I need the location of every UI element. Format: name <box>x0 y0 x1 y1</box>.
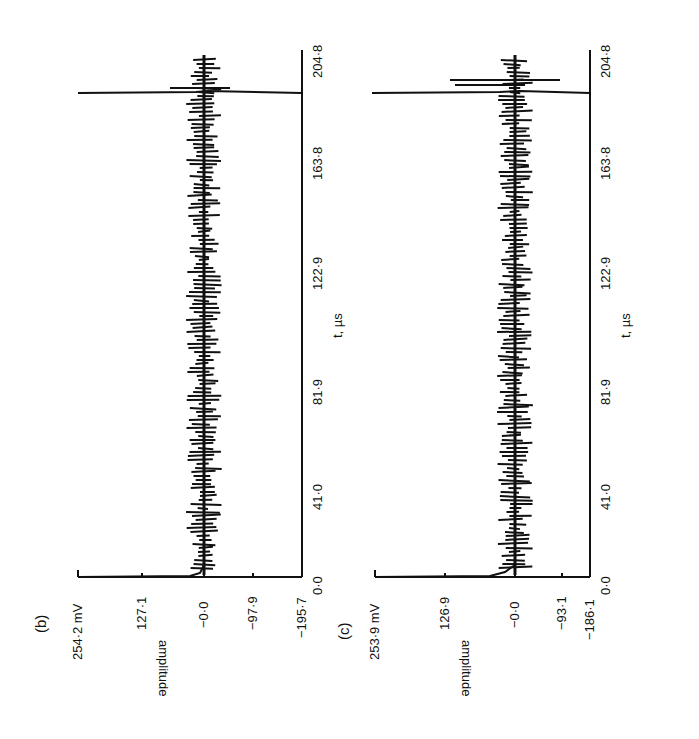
panel-b-xtick-3: 122·9 <box>310 257 325 290</box>
panel-b-ytick-4: −195·7 <box>294 597 309 638</box>
panel-b-xtick-1: 41·0 <box>310 484 325 510</box>
panel-b-xtick-0: 0·0 <box>310 576 325 595</box>
panel-b-xtick-5: 204·8 <box>310 45 325 78</box>
panel-c-ytick-0: 253·9 mV <box>367 604 382 660</box>
panel-c-xtick-0: 0·0 <box>598 576 613 595</box>
panel-b-xtick-2: 81·9 <box>310 379 325 405</box>
panel-b-xtick-4: 163·8 <box>310 147 325 180</box>
panel-c-ytick-1: 126·9 <box>437 597 452 630</box>
panel-c-ytick-4: −186·1 <box>582 599 597 640</box>
panel-c-xtick-1: 41·0 <box>598 484 613 510</box>
panel-c-ytick-2: −0·0 <box>507 602 522 628</box>
panel-b-trace <box>78 55 302 577</box>
panel-b-ytick-1: 127·1 <box>134 597 149 630</box>
panel-c-xtick-2: 81·9 <box>598 379 613 405</box>
panel-c-ytick-3: −93·1 <box>554 596 569 630</box>
panel-b-xlabel: t, µs <box>330 313 345 338</box>
panel-b-ytick-3: −97·9 <box>245 596 260 630</box>
panel-c-xlabel: t, µs <box>618 313 633 338</box>
panel-c-xtick-3: 122·9 <box>598 257 613 290</box>
panel-c-trace <box>372 55 590 577</box>
panel-b-ytick-2: −0·0 <box>196 602 211 628</box>
panel-c-ylabel: amplitude <box>459 640 474 696</box>
panel-b-ytick-0: 254·2 mV <box>70 604 85 660</box>
panel-b-ylabel: amplitude <box>156 640 171 696</box>
panel-c-xtick-4: 163·8 <box>598 147 613 180</box>
panel-c-label: (c) <box>335 623 352 641</box>
panel-c-xtick-5: 204·8 <box>598 45 613 78</box>
panel-b-label: (b) <box>32 615 49 633</box>
